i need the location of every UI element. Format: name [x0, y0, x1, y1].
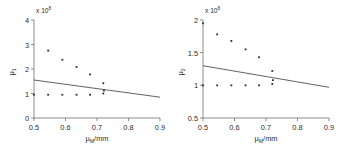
data-point: [61, 59, 63, 61]
trend-line-segment: [203, 66, 329, 88]
y-axis-ticks-mu2: [200, 20, 203, 118]
x-tick-label-0: 0.5: [29, 123, 39, 132]
data-point: [271, 70, 273, 72]
y-tick-label-2: 2: [25, 65, 29, 74]
data-point: [102, 93, 104, 95]
y-tick-label-3: 2: [194, 16, 198, 25]
trend-line-mu1: [34, 80, 160, 97]
y-tick-label-2: 1.5: [188, 49, 198, 58]
y-axis-exponent-mu2: x 108: [205, 6, 220, 14]
data-point: [216, 84, 218, 86]
data-points-mu1: [33, 50, 105, 96]
chart-panel-mu2: 0.5 1 1.5 2 0.5 0.6 0.7 0.8 0.9 x 108 μ2…: [169, 0, 338, 145]
data-point: [271, 83, 273, 85]
data-point: [230, 40, 232, 42]
data-point: [272, 79, 274, 81]
y-tick-label-4: 4: [25, 16, 29, 25]
trend-line-mu2: [203, 66, 329, 88]
data-point: [245, 49, 247, 51]
x-tick-label-3: 0.8: [123, 123, 133, 132]
data-point: [89, 94, 91, 96]
data-point: [47, 50, 49, 52]
data-point: [245, 84, 247, 86]
exponent-power: 8: [217, 6, 220, 11]
y-axis-ticks-mu1: [31, 20, 34, 118]
y-axis-label-mu2: μ2: [176, 68, 186, 75]
data-point: [76, 94, 78, 96]
exponent-base: x 10: [36, 7, 49, 14]
x-label-unit: /mm: [263, 134, 277, 143]
data-point: [230, 84, 232, 86]
data-point: [76, 66, 78, 68]
data-point: [216, 33, 218, 35]
y-tick-label-3: 3: [25, 41, 29, 50]
chart-panel-mu1: 0 1 2 3 4 0.5 0.6 0.7 0.8 0.9 x 108 μ1 μ…: [0, 0, 169, 145]
x-tick-label-1: 0.6: [229, 123, 239, 132]
exponent-base: x 10: [205, 7, 218, 14]
data-point: [202, 22, 204, 24]
x-tick-label-4: 0.9: [324, 123, 334, 132]
x-label-unit: /mm: [94, 134, 108, 143]
y-label-sub: 1: [11, 68, 17, 71]
data-point: [202, 84, 204, 86]
x-axis-label-mu2: μM/mm: [255, 134, 278, 144]
y-tick-label-0: 0.5: [188, 114, 198, 123]
x-tick-label-0: 0.5: [198, 123, 208, 132]
y-axis-label-mu1: μ1: [7, 68, 17, 75]
x-tick-label-1: 0.6: [60, 123, 70, 132]
exponent-power: 8: [48, 6, 51, 11]
y-tick-label-0: 0: [25, 114, 29, 123]
data-point: [33, 94, 35, 96]
y-label-sub: 2: [180, 68, 186, 71]
x-tick-label-2: 0.7: [92, 123, 102, 132]
x-axis-ticks-mu1: [34, 118, 160, 121]
plot-axes-mu1: [34, 20, 160, 118]
y-tick-label-1: 1: [194, 81, 198, 90]
data-point: [258, 56, 260, 58]
figure-container: 0 1 2 3 4 0.5 0.6 0.7 0.8 0.9 x 108 μ1 μ…: [0, 0, 339, 145]
data-point: [47, 94, 49, 96]
x-axis-label-mu1: μM/mm: [86, 134, 109, 144]
data-points-mu2: [202, 22, 274, 86]
x-tick-label-2: 0.7: [261, 123, 271, 132]
y-axis-exponent-mu1: x 108: [36, 6, 51, 14]
scatter-plot-mu2: 0.5 1 1.5 2 0.5 0.6 0.7 0.8 0.9 x 108 μ2…: [169, 0, 338, 145]
x-tick-label-4: 0.9: [155, 123, 165, 132]
data-point: [89, 73, 91, 75]
data-point: [258, 84, 260, 86]
x-tick-label-3: 0.8: [292, 123, 302, 132]
scatter-plot-mu1: 0 1 2 3 4 0.5 0.6 0.7 0.8 0.9 x 108 μ1 μ…: [0, 0, 169, 145]
x-axis-ticks-mu2: [203, 118, 329, 121]
data-point: [102, 82, 104, 84]
trend-line-segment: [34, 80, 160, 97]
y-tick-label-1: 1: [25, 90, 29, 99]
data-point: [61, 94, 63, 96]
